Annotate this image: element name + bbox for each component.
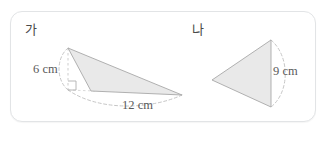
dimension-label-base-na: 9 cm [273,65,298,78]
triangle-ga [68,48,182,95]
dimension-label-height-ga: 6 cm [33,63,58,76]
right-angle-mark-ga [68,81,76,90]
triangle-na [212,40,271,107]
dimension-label-base-ga: 12 cm [122,99,153,112]
problem-figure-page: 가 나 6 cm 12 cm 9 cm ( ) [0,0,332,160]
figure-label-ga: 가 [25,23,37,36]
answer-row: ( ) [0,126,332,158]
height-arc-ga [59,48,68,90]
figure-label-na: 나 [192,23,204,36]
